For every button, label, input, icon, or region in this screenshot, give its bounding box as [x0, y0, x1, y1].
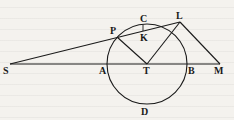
label-t: T [143, 66, 150, 76]
diagram: S A T B M P C K L D [0, 0, 234, 120]
label-d: D [141, 107, 148, 117]
label-c: C [140, 14, 147, 24]
label-l: L [176, 11, 183, 21]
line-s-l [10, 22, 180, 64]
label-s: S [3, 66, 9, 76]
label-p: P [110, 26, 116, 36]
label-m: M [214, 66, 223, 76]
line-t-l [147, 22, 180, 64]
label-a: A [99, 66, 106, 76]
geometry-figure [0, 0, 234, 120]
label-k: K [140, 33, 148, 43]
label-b: B [188, 66, 195, 76]
